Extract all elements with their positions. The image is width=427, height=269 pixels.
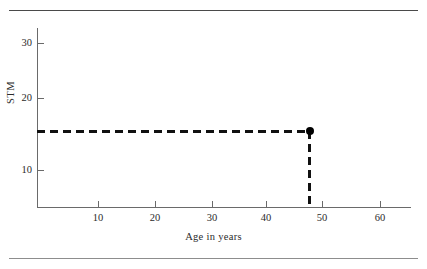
cropped-caption-bottom <box>9 246 418 256</box>
data-point-marker <box>306 127 314 135</box>
x-tick-50 <box>322 201 323 207</box>
y-tick-label-30: 30 <box>10 37 32 48</box>
chart-plot-area: 30 20 10 10 20 30 40 50 60 STM Age in ye… <box>0 0 427 269</box>
x-tick-label-10: 10 <box>83 212 113 223</box>
x-tick-30 <box>212 201 213 207</box>
y-axis-line <box>37 28 38 208</box>
y-tick-30 <box>38 43 44 44</box>
x-axis-line <box>37 207 411 208</box>
x-tick-20 <box>155 201 156 207</box>
x-tick-label-50: 50 <box>307 212 337 223</box>
x-tick-label-20: 20 <box>140 212 170 223</box>
vertical-guide-line <box>308 131 311 207</box>
y-tick-20 <box>38 98 44 99</box>
x-tick-label-60: 60 <box>365 212 395 223</box>
x-tick-label-40: 40 <box>251 212 281 223</box>
x-axis-title: Age in years <box>0 231 427 242</box>
x-tick-label-30: 30 <box>197 212 227 223</box>
y-tick-label-10: 10 <box>10 164 32 175</box>
y-axis-title: STM <box>5 81 16 104</box>
x-tick-10 <box>98 201 99 207</box>
horizontal-guide-line <box>37 130 311 133</box>
y-tick-10 <box>38 170 44 171</box>
x-tick-40 <box>266 201 267 207</box>
x-tick-60 <box>380 201 381 207</box>
page-rule-bottom <box>9 258 418 259</box>
